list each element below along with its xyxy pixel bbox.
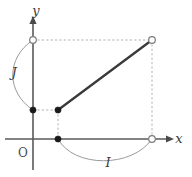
- coordinate-diagram: y x O J I: [0, 0, 192, 177]
- y-axis-label: y: [31, 3, 40, 18]
- open-point-segment-right: [149, 37, 156, 44]
- closed-point-y-axis: [30, 107, 36, 113]
- origin-label: O: [18, 146, 28, 160]
- open-point-y-axis: [30, 37, 37, 44]
- interval-i-label: I: [104, 155, 111, 170]
- closed-point-segment-left: [55, 107, 61, 113]
- x-axis-label: x: [175, 131, 183, 146]
- x-axis-arrowhead: [166, 135, 174, 142]
- interval-j-label: J: [8, 65, 17, 80]
- graph-segment: [58, 40, 152, 110]
- figure-container: y x O J I: [0, 0, 192, 177]
- open-point-x-axis: [149, 136, 156, 143]
- closed-point-x-axis: [55, 136, 61, 142]
